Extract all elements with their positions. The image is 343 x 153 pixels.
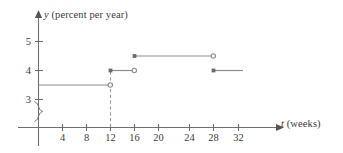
y-axis-arrowhead [35, 10, 42, 18]
y-tick-label-5: 5 [17, 36, 31, 47]
y-tick-label-4: 4 [17, 65, 31, 76]
axes-group [18, 10, 284, 146]
x-axis-title: t (weeks) [281, 118, 321, 129]
x-tick-label-4: 4 [54, 132, 72, 143]
open-endpoint-12-3p5 [108, 83, 112, 87]
y-tick-label-3: 3 [17, 94, 31, 105]
x-tick-label-16: 16 [126, 132, 144, 143]
step-function-chart: y (percent per year) t (weeks) 4 8 12 16… [0, 0, 343, 153]
y-axis-variable: y [44, 9, 49, 20]
x-axis-variable: t [281, 118, 284, 129]
y-axis-title: y (percent per year) [44, 9, 128, 20]
x-tick-label-32: 32 [230, 132, 248, 143]
open-endpoint-16-4 [132, 68, 136, 72]
x-tick-label-8: 8 [78, 132, 96, 143]
x-tick-label-20: 20 [150, 132, 168, 143]
x-tick-label-12: 12 [102, 132, 120, 143]
chart-plot-area [0, 0, 343, 153]
y-axis-unit: (percent per year) [52, 9, 128, 20]
open-endpoint-28-4p5 [211, 54, 215, 58]
x-axis-unit: (weeks) [287, 118, 321, 129]
closed-endpoint-12-4 [109, 69, 113, 73]
x-tick-label-24: 24 [181, 132, 199, 143]
x-tick-label-28: 28 [205, 132, 223, 143]
closed-endpoint-28-4 [212, 69, 216, 73]
closed-endpoint-16-4p5 [133, 54, 137, 58]
